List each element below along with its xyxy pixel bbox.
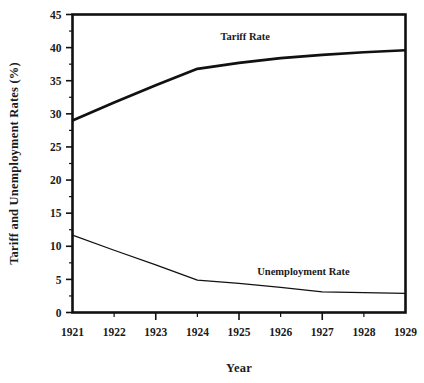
series-label-unemployment-rate: Unemployment Rate	[257, 266, 350, 277]
x-tick-label: 1927	[311, 326, 334, 338]
series-line-tariff-rate	[73, 50, 406, 120]
y-tick-label: 0	[56, 307, 62, 319]
y-tick-label: 40	[50, 42, 62, 54]
y-tick-label: 25	[50, 141, 62, 153]
y-axis-title: Tariff and Unemployment Rates (%)	[7, 62, 21, 265]
x-tick-label: 1922	[103, 326, 126, 338]
y-tick-label: 5	[56, 274, 62, 286]
chart-container: 0510152025303540451921192219231924192519…	[0, 0, 424, 383]
x-tick-label: 1928	[352, 326, 375, 338]
y-tick-label: 15	[50, 207, 62, 219]
y-tick-label: 30	[50, 108, 62, 120]
plot-frame	[73, 15, 406, 313]
x-tick-label: 1925	[228, 326, 251, 338]
x-tick-label: 1929	[394, 326, 417, 338]
y-tick-label: 10	[50, 240, 62, 252]
x-tick-label: 1923	[144, 326, 167, 338]
line-chart: 0510152025303540451921192219231924192519…	[0, 0, 424, 383]
x-axis-title: Year	[226, 361, 252, 375]
x-tick-label: 1926	[269, 326, 292, 338]
series-line-unemployment-rate	[73, 235, 406, 293]
series-label-tariff-rate: Tariff Rate	[221, 31, 271, 42]
y-tick-label: 35	[50, 75, 62, 87]
y-tick-label: 45	[50, 9, 62, 21]
y-tick-label: 20	[50, 174, 62, 186]
x-tick-label: 1924	[186, 326, 209, 338]
x-tick-label: 1921	[61, 326, 84, 338]
